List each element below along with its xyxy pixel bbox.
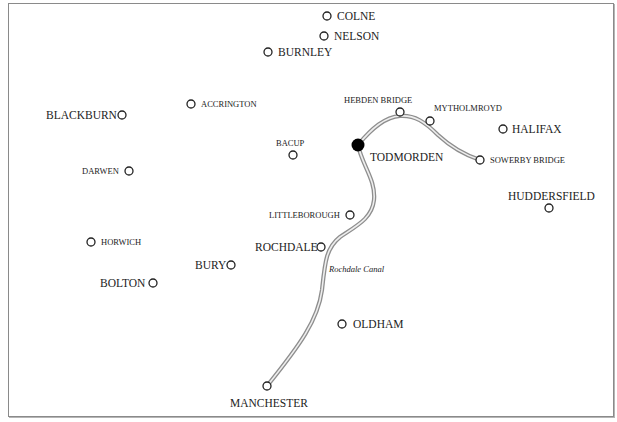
town-marker-todmorden-highlight [352, 139, 365, 152]
label-bury: BURY [195, 260, 226, 272]
town-marker-accrington [187, 100, 195, 108]
town-marker-rochdale [317, 243, 325, 251]
town-marker-blackburn [118, 111, 126, 119]
label-burnley: BURNLEY [278, 47, 332, 59]
label-bolton: BOLTON [100, 278, 145, 290]
town-marker-hebden-bridge [396, 108, 404, 116]
town-marker-oldham [338, 320, 346, 328]
label-nelson: NELSON [334, 31, 379, 43]
label-accrington: ACCRINGTON [201, 100, 257, 109]
label-mytholmroyd: MYTHOLMROYD [434, 104, 502, 113]
town-marker-burnley [264, 48, 272, 56]
label-littleborough: LITTLEBOROUGH [269, 211, 340, 220]
town-marker-bury [227, 261, 235, 269]
label-manchester: MANCHESTER [230, 398, 308, 410]
town-marker-bacup [289, 151, 297, 159]
town-markers [87, 12, 553, 390]
label-darwen: DARWEN [82, 167, 119, 176]
town-marker-sowerby-bridge [476, 156, 484, 164]
town-marker-littleborough [346, 211, 354, 219]
town-marker-colne [323, 12, 331, 20]
label-hebden-bridge: HEBDEN BRIDGE [344, 96, 412, 105]
label-halifax: HALIFAX [512, 124, 562, 136]
label-oldham: OLDHAM [353, 319, 403, 331]
label-horwich: HORWICH [101, 238, 141, 247]
label-rochdale: ROCHDALE [255, 242, 318, 254]
town-marker-nelson [320, 32, 328, 40]
town-marker-manchester [263, 382, 271, 390]
town-marker-halifax [499, 125, 507, 133]
town-marker-horwich [87, 238, 95, 246]
town-marker-huddersfield [545, 204, 553, 212]
town-marker-bolton [149, 279, 157, 287]
label-bacup: BACUP [276, 139, 304, 148]
label-rochdale-canal: Rochdale Canal [329, 265, 384, 274]
label-todmorden: TODMORDEN [370, 152, 443, 164]
label-sowerby-bridge: SOWERBY BRIDGE [490, 156, 565, 165]
label-colne: COLNE [337, 11, 375, 23]
town-marker-darwen [125, 167, 133, 175]
label-huddersfield: HUDDERSFIELD [508, 191, 595, 203]
town-marker-mytholmroyd [426, 117, 434, 125]
label-blackburn: BLACKBURN [46, 110, 117, 122]
